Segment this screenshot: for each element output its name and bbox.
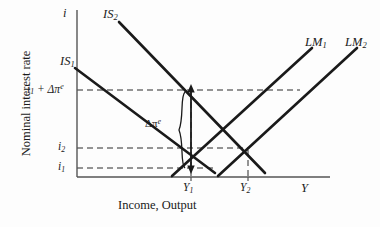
y-axis-title: Nominal interest rate [19, 34, 34, 174]
y-axis-symbol: i [63, 7, 66, 20]
curve-sub: 1 [322, 40, 326, 50]
y-tick-label-i1-plus-delta-pi: i1 + Δπe [27, 83, 64, 96]
tick-sup: e [60, 82, 63, 91]
annot-sup: e [158, 117, 161, 126]
curve-label-IS2: IS2 [103, 8, 118, 22]
curve-base: IS [60, 54, 70, 68]
shift-arrow-head-down [187, 166, 194, 175]
annot-base: Δπ [145, 117, 158, 129]
shift-arrow-head-up [187, 84, 194, 93]
curve-label-LM2: LM2 [345, 36, 367, 50]
curve-sub: 1 [70, 59, 74, 69]
curve-IS2 [119, 22, 265, 173]
tick-suffix: + Δπ [34, 83, 60, 95]
curve-label-IS1: IS1 [60, 55, 75, 69]
x-axis-title: Income, Output [118, 198, 196, 213]
curve-label-LM1: LM1 [305, 36, 327, 50]
curve-base: IS [103, 7, 113, 21]
curve-LM1 [172, 48, 312, 176]
x-tick-label-Y2: Y2 [240, 182, 250, 195]
tick-sub: 1 [189, 186, 193, 195]
curve-base: LM [345, 35, 362, 49]
tick-sub: 1 [61, 165, 65, 174]
tick-sub: 2 [61, 145, 65, 154]
delta-pi-brace [179, 92, 185, 168]
curve-base: LM [305, 35, 322, 49]
curve-sub: 2 [113, 12, 117, 22]
x-tick-label-Y1: Y1 [183, 182, 193, 195]
is-lm-figure: Nominal interest rate i Income, Output Y… [0, 0, 380, 227]
y-tick-label-i1: i1 [58, 161, 65, 174]
curve-LM2 [218, 48, 357, 176]
x-axis-symbol: Y [301, 182, 308, 195]
y-tick-label-i2: i2 [58, 141, 65, 154]
curve-sub: 2 [362, 40, 366, 50]
annotation-delta-pi-e: Δπe [145, 118, 161, 129]
tick-sub: 2 [246, 186, 250, 195]
